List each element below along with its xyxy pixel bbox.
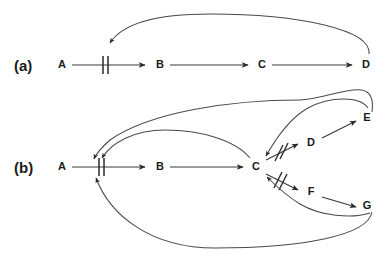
node-b-G: G	[363, 199, 372, 211]
node-b-D: D	[307, 136, 315, 148]
figure-background	[0, 0, 390, 257]
node-a-D: D	[362, 58, 370, 70]
node-b-E: E	[363, 111, 370, 123]
node-a-C: C	[258, 58, 266, 70]
node-b-A: A	[58, 160, 66, 172]
pathway-diagram: (a) A B C D (b)	[0, 0, 390, 257]
figure-root: (a) A B C D (b)	[0, 0, 390, 257]
panel-a-label: (a)	[14, 57, 32, 74]
node-a-B: B	[156, 58, 164, 70]
node-b-F: F	[308, 185, 315, 197]
node-a-A: A	[58, 58, 66, 70]
node-b-B: B	[156, 160, 164, 172]
node-b-C: C	[252, 160, 260, 172]
panel-b-label: (b)	[14, 159, 33, 176]
